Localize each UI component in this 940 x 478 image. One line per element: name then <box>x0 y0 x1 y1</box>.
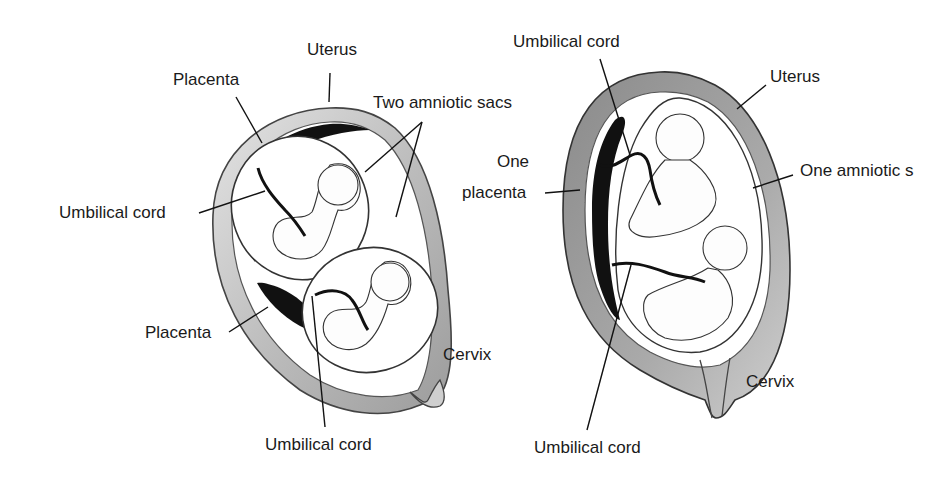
label-cervix-left: Cervix <box>443 345 491 365</box>
label-placenta-top-left: Placenta <box>173 70 239 90</box>
label-one-placenta-line2: placenta <box>462 183 526 203</box>
label-uterus-right: Uterus <box>770 67 820 87</box>
label-placenta-bottom-left: Placenta <box>145 323 211 343</box>
label-cervix-right: Cervix <box>746 372 794 392</box>
label-umbilical-cord-bottom-right: Umbilical cord <box>534 438 641 458</box>
label-one-placenta-line1: One <box>480 152 546 172</box>
label-umbilical-cord-top-right: Umbilical cord <box>513 32 620 52</box>
label-uterus-left: Uterus <box>307 40 357 60</box>
label-one-amniotic-sac: One amniotic s <box>800 161 913 181</box>
label-two-amniotic-sacs: Two amniotic sacs <box>373 93 512 113</box>
left-uterus-illustration <box>199 73 452 427</box>
label-umbilical-cord-bottom-left: Umbilical cord <box>265 435 372 455</box>
twin-pregnancy-diagram: Uterus Placenta Two amniotic sacs Umbili… <box>0 0 940 478</box>
label-umbilical-cord-left: Umbilical cord <box>59 203 166 223</box>
